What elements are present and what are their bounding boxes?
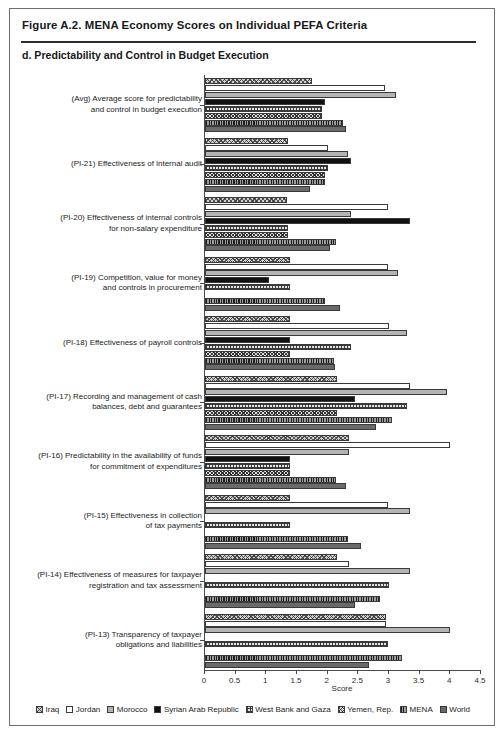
legend-swatch-jordan bbox=[66, 706, 73, 713]
bar-iraq bbox=[205, 197, 287, 203]
y-axis-tick bbox=[200, 224, 204, 225]
legend-item-morocco[interactable]: Morocco bbox=[107, 705, 147, 714]
bar-iraq bbox=[205, 257, 290, 263]
bar-mena bbox=[205, 358, 334, 364]
bar-wbg bbox=[205, 284, 290, 290]
legend-item-yemen[interactable]: Yemen, Rep. bbox=[338, 705, 393, 714]
bar-wbg bbox=[205, 522, 290, 528]
category-label-line: (PI-14) Effectiveness of measures for ta… bbox=[24, 570, 202, 581]
category-label-line: (Avg) Average score for predictability bbox=[24, 94, 202, 105]
bar-morocco bbox=[205, 92, 396, 98]
figure-page: Figure A.2. MENA Economy Scores on Indiv… bbox=[0, 0, 504, 736]
bar-morocco bbox=[205, 211, 351, 217]
x-axis-tick bbox=[204, 670, 205, 674]
bar-yemen bbox=[205, 470, 290, 476]
bar-world bbox=[205, 186, 310, 192]
bar-iraq bbox=[205, 554, 337, 560]
figure-title: Figure A.2. MENA Economy Scores on Indiv… bbox=[22, 19, 462, 31]
y-axis-tick bbox=[200, 640, 204, 641]
bar-world bbox=[205, 424, 376, 430]
bar-mena bbox=[205, 417, 392, 423]
category-label-line: registration and tax assessment bbox=[24, 581, 202, 592]
bar-morocco bbox=[205, 568, 410, 574]
category-label-line: of tax payments bbox=[24, 521, 202, 532]
category-label: (PI-16) Predictability in the availabili… bbox=[24, 451, 202, 472]
bar-jordan bbox=[205, 442, 450, 448]
bar-syria bbox=[205, 218, 410, 224]
category-axis-labels: (Avg) Average score for predictabilityan… bbox=[22, 75, 202, 670]
category-label-line: (PI-20) Effectiveness of internal contro… bbox=[24, 213, 202, 224]
bar-jordan bbox=[205, 621, 386, 627]
bar-mena bbox=[205, 477, 336, 483]
bar-wbg bbox=[205, 463, 290, 469]
legend-swatch-syria bbox=[154, 706, 161, 713]
category-label-line: for non-salary expenditure bbox=[24, 224, 202, 235]
legend-item-world[interactable]: World bbox=[440, 705, 470, 714]
bar-mena bbox=[205, 298, 325, 304]
category-label-line: (PI-18) Effectiveness of payroll control… bbox=[24, 338, 202, 349]
bar-mena bbox=[205, 655, 402, 661]
bar-morocco bbox=[205, 449, 349, 455]
category-label-line: for commitment of expenditures bbox=[24, 462, 202, 473]
legend-swatch-mena bbox=[400, 706, 407, 713]
bar-morocco bbox=[205, 270, 398, 276]
bar-syria bbox=[205, 337, 290, 343]
bar-mena bbox=[205, 239, 336, 245]
x-axis-tick bbox=[327, 670, 328, 674]
category-label: (Avg) Average score for predictabilityan… bbox=[24, 94, 202, 115]
bar-wbg bbox=[205, 403, 407, 409]
legend-item-wbg[interactable]: West Bank and Gaza bbox=[246, 705, 331, 714]
bar-world bbox=[205, 483, 346, 489]
bar-jordan bbox=[205, 85, 385, 91]
bar-morocco bbox=[205, 389, 447, 395]
legend-item-syria[interactable]: Syrian Arab Republic bbox=[154, 705, 238, 714]
bar-mena bbox=[205, 120, 343, 126]
legend-label: Iraq bbox=[46, 705, 60, 714]
legend-item-mena[interactable]: MENA bbox=[400, 705, 433, 714]
category-label-line: and control in budget execution bbox=[24, 105, 202, 116]
legend-label: Yemen, Rep. bbox=[347, 705, 393, 714]
bar-yemen bbox=[205, 172, 325, 178]
bar-iraq bbox=[205, 376, 337, 382]
category-label: (PI-19) Competition, value for moneyand … bbox=[24, 273, 202, 294]
bar-iraq bbox=[205, 138, 288, 144]
x-axis-tick bbox=[265, 670, 266, 674]
category-label-line: and controls in procurement bbox=[24, 283, 202, 294]
x-axis-line bbox=[204, 670, 480, 671]
x-axis-tick bbox=[388, 670, 389, 674]
bar-yemen bbox=[205, 113, 322, 119]
x-axis-tick bbox=[480, 670, 481, 674]
y-axis-tick bbox=[200, 581, 204, 582]
bar-iraq bbox=[205, 614, 386, 620]
bar-yemen bbox=[205, 410, 337, 416]
bar-jordan bbox=[205, 204, 388, 210]
legend-label: Morocco bbox=[117, 705, 148, 714]
y-axis-tick bbox=[200, 343, 204, 344]
legend-item-jordan[interactable]: Jordan bbox=[66, 705, 100, 714]
y-axis-tick bbox=[200, 164, 204, 165]
bar-wbg bbox=[205, 641, 388, 647]
bar-syria bbox=[205, 277, 269, 283]
panel-title: d. Predictability and Control in Budget … bbox=[22, 49, 452, 61]
bar-jordan bbox=[205, 383, 410, 389]
bar-morocco bbox=[205, 151, 348, 157]
category-label-line: (PI-15) Effectiveness in collection bbox=[24, 511, 202, 522]
bar-yemen bbox=[205, 232, 288, 238]
chart-legend: IraqJordanMoroccoSyrian Arab RepublicWes… bbox=[10, 705, 496, 714]
bar-mena bbox=[205, 536, 348, 542]
category-label-line: (PI-19) Competition, value for money bbox=[24, 273, 202, 284]
bar-world bbox=[205, 602, 355, 608]
legend-label: West Bank and Gaza bbox=[255, 705, 330, 714]
bar-mena bbox=[205, 596, 380, 602]
category-label: (PI-15) Effectiveness in collectionof ta… bbox=[24, 511, 202, 532]
y-axis-tick bbox=[200, 283, 204, 284]
bar-jordan bbox=[205, 502, 388, 508]
legend-item-iraq[interactable]: Iraq bbox=[36, 705, 59, 714]
legend-swatch-yemen bbox=[338, 706, 345, 713]
category-label: (PI-14) Effectiveness of measures for ta… bbox=[24, 570, 202, 591]
bar-world bbox=[205, 662, 369, 668]
y-axis-tick bbox=[200, 462, 204, 463]
legend-label: World bbox=[449, 705, 470, 714]
bar-world bbox=[205, 245, 330, 251]
y-axis-tick bbox=[200, 402, 204, 403]
